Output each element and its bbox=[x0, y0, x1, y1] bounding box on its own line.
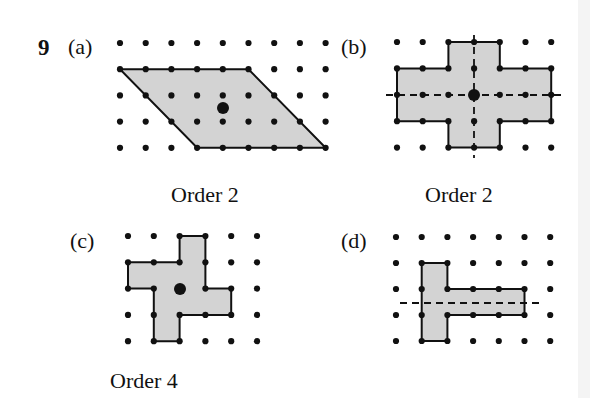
grid-dot bbox=[393, 312, 399, 318]
grid-dot bbox=[228, 286, 234, 292]
grid-dot bbox=[220, 145, 226, 151]
grid-dot bbox=[151, 286, 157, 292]
grid-dot bbox=[394, 92, 400, 98]
grid-dot bbox=[117, 119, 123, 125]
grid-dot bbox=[521, 260, 527, 266]
grid-dot bbox=[168, 119, 174, 125]
grid-dot bbox=[496, 234, 502, 240]
grid-dot bbox=[125, 338, 131, 344]
grid-dot bbox=[444, 286, 450, 292]
grid-dot bbox=[245, 145, 251, 151]
grid-dot bbox=[470, 286, 476, 292]
grid-dot bbox=[548, 39, 554, 45]
grid-dot bbox=[254, 286, 260, 292]
grid-dot bbox=[444, 234, 450, 240]
grid-dot bbox=[271, 145, 277, 151]
grid-dot bbox=[151, 259, 157, 265]
grid-dot bbox=[445, 145, 451, 151]
grid-dot bbox=[151, 338, 157, 344]
grid-dot bbox=[143, 92, 149, 98]
grid-dot bbox=[444, 338, 450, 344]
grid-dot bbox=[220, 92, 226, 98]
grid-dot bbox=[445, 92, 451, 98]
grid-dot bbox=[228, 312, 234, 318]
grid-dot bbox=[445, 65, 451, 71]
grid-dot bbox=[497, 39, 503, 45]
grid-dot bbox=[297, 66, 303, 72]
grid-dot bbox=[521, 338, 527, 344]
grid-dot bbox=[521, 234, 527, 240]
grid-dot bbox=[177, 233, 183, 239]
grid-dot bbox=[323, 145, 329, 151]
centre-of-rotation-dot bbox=[217, 102, 229, 114]
grid-dot bbox=[143, 119, 149, 125]
grid-dot bbox=[228, 259, 234, 265]
grid-dot bbox=[220, 119, 226, 125]
grid-dot bbox=[419, 234, 425, 240]
grid-dot bbox=[444, 260, 450, 266]
grid-dot bbox=[297, 92, 303, 98]
grid-dot bbox=[323, 40, 329, 46]
grid-dot bbox=[548, 65, 554, 71]
grid-dot bbox=[177, 259, 183, 265]
grid-dot bbox=[419, 286, 425, 292]
grid-dot bbox=[168, 40, 174, 46]
grid-dot bbox=[393, 234, 399, 240]
grid-dot bbox=[394, 118, 400, 124]
grid-dot bbox=[117, 66, 123, 72]
grid-dot bbox=[522, 145, 528, 151]
grid-dot bbox=[420, 145, 426, 151]
grid-dot bbox=[394, 65, 400, 71]
grid-dot bbox=[419, 312, 425, 318]
grid-dot bbox=[522, 92, 528, 98]
grid-dot bbox=[323, 119, 329, 125]
centre-of-rotation-dot bbox=[174, 283, 186, 295]
grid-dot bbox=[497, 118, 503, 124]
question-number: 9 bbox=[38, 36, 50, 59]
grid-dot bbox=[194, 92, 200, 98]
shaded-shape bbox=[422, 263, 525, 341]
grid-dot bbox=[548, 145, 554, 151]
grid-dot bbox=[496, 338, 502, 344]
grid-dot bbox=[297, 40, 303, 46]
grid-dot bbox=[548, 118, 554, 124]
grid-dot bbox=[323, 92, 329, 98]
grid-dot bbox=[470, 312, 476, 318]
part-c-caption: Order 4 bbox=[110, 370, 178, 392]
grid-dot bbox=[271, 66, 277, 72]
part-b-diagram bbox=[386, 35, 562, 158]
grid-dot bbox=[202, 259, 208, 265]
grid-dot bbox=[471, 65, 477, 71]
grid-dot bbox=[445, 118, 451, 124]
grid-dot bbox=[228, 338, 234, 344]
grid-dot bbox=[471, 39, 477, 45]
grid-dot bbox=[151, 312, 157, 318]
grid-dot bbox=[470, 234, 476, 240]
grid-dot bbox=[202, 312, 208, 318]
grid-dot bbox=[297, 119, 303, 125]
grid-dot bbox=[497, 92, 503, 98]
grid-dot bbox=[245, 66, 251, 72]
grid-dot bbox=[419, 338, 425, 344]
grid-dot bbox=[419, 260, 425, 266]
grid-dot bbox=[245, 40, 251, 46]
grid-dot bbox=[271, 119, 277, 125]
grid-dot bbox=[117, 40, 123, 46]
symmetry-figure bbox=[0, 0, 590, 398]
grid-dot bbox=[177, 338, 183, 344]
part-c-diagram bbox=[125, 233, 260, 344]
grid-dot bbox=[168, 145, 174, 151]
grid-dot bbox=[393, 338, 399, 344]
grid-dot bbox=[202, 233, 208, 239]
grid-dot bbox=[471, 145, 477, 151]
grid-dot bbox=[548, 92, 554, 98]
grid-dot bbox=[168, 66, 174, 72]
grid-dot bbox=[521, 312, 527, 318]
grid-dot bbox=[497, 65, 503, 71]
grid-dot bbox=[168, 92, 174, 98]
grid-dot bbox=[271, 92, 277, 98]
grid-dot bbox=[420, 65, 426, 71]
grid-dot bbox=[497, 145, 503, 151]
grid-dot bbox=[151, 233, 157, 239]
grid-dot bbox=[220, 40, 226, 46]
